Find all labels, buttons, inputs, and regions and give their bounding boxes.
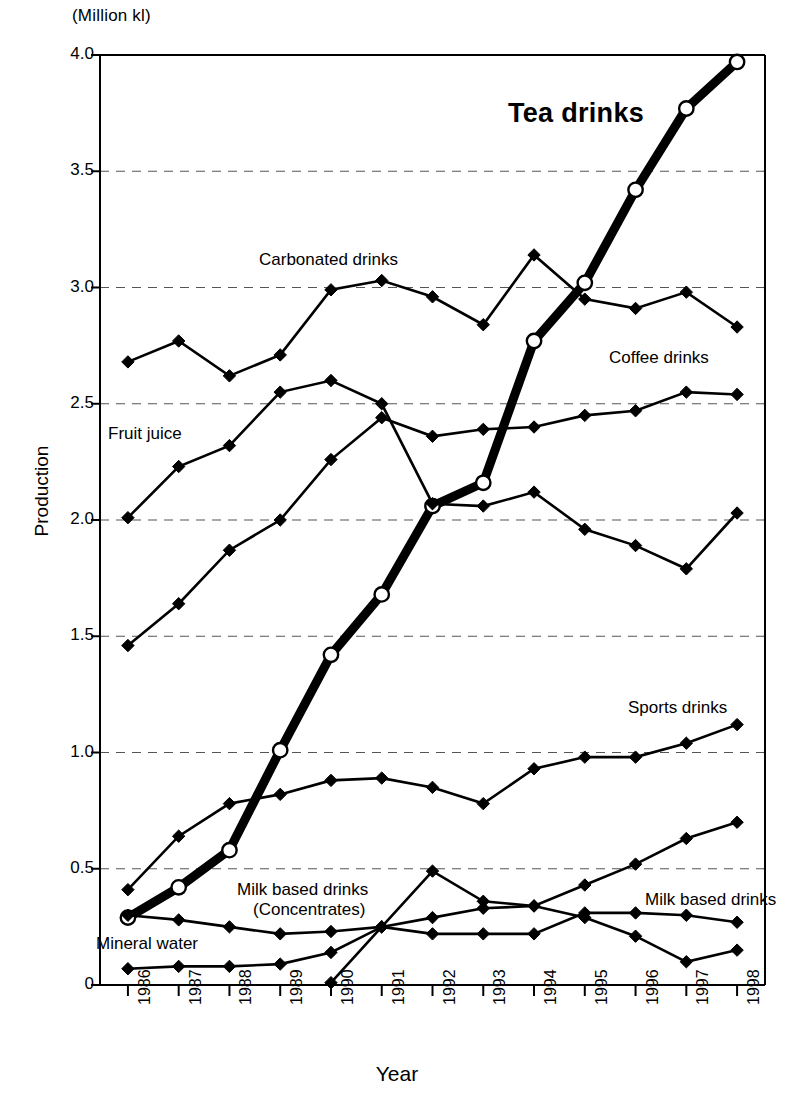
x-tick-label: 1997 [694,969,712,1005]
annotation-fruit-juice: Fruit juice [108,424,182,444]
x-tick-label: 1996 [644,969,662,1005]
annotation-coffee: Coffee drinks [609,348,709,368]
x-tick-label: 1995 [593,969,611,1005]
annotation-concentrates-2: (Concentrates) [253,900,365,920]
annotation-concentrates-1: Milk based drinks [237,880,368,900]
x-tick-label: 1988 [237,969,255,1005]
x-tick-label: 1989 [288,969,306,1005]
x-tick-label: 1998 [745,969,763,1005]
annotation-mineral: Mineral water [96,934,198,954]
x-tick-label: 1993 [491,969,509,1005]
x-tick-label: 1994 [542,969,560,1005]
x-tick-label: 1990 [339,969,357,1005]
chart-figure: (Million kl) Production Year 00.51.01.52… [0,0,794,1099]
annotation-tea: Tea drinks [508,98,644,129]
annotation-carbonated: Carbonated drinks [259,250,398,270]
annotation-sports: Sports drinks [628,698,727,718]
x-tick-label: 1992 [441,969,459,1005]
x-tick-label: 1986 [136,969,154,1005]
x-tick-label: 1987 [187,969,205,1005]
x-tick-label: 1991 [390,969,408,1005]
annotation-milk: Milk based drinks [645,890,776,910]
